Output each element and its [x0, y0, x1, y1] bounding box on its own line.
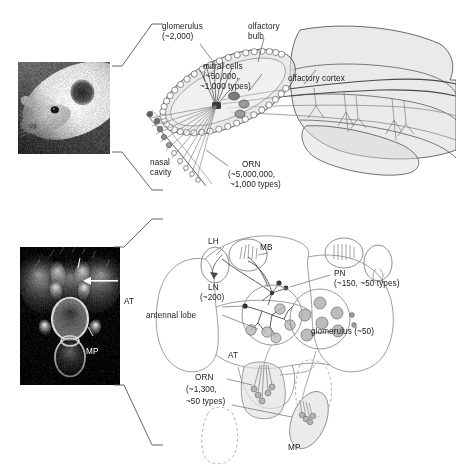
mushroom-body — [229, 238, 363, 271]
leader-ln — [222, 306, 244, 307]
label-ln-count: (~200) — [200, 293, 224, 303]
label-mp-photo: MP — [86, 347, 98, 357]
label-mitral-cells-count2: ~1,000 types) — [200, 82, 251, 92]
label-glomerulus-count: (~2,000) — [162, 32, 193, 42]
leader-orn — [206, 150, 228, 166]
label-orn-fly-count2: ~50 types) — [186, 397, 225, 407]
antenna-structure — [241, 362, 285, 419]
leader-antennal-lobe — [222, 315, 258, 329]
label-orn-count1: (~5,000,000, — [228, 170, 275, 180]
label-lh: LH — [208, 237, 219, 247]
label-antennal-lobe: antennal lobe — [146, 311, 196, 321]
leader-mb — [258, 253, 268, 255]
label-glomerulus: glomerulus — [162, 22, 203, 32]
connector-top — [112, 24, 163, 66]
label-at-diagram: AT — [228, 351, 238, 361]
label-olfactory-cortex: olfactory cortex — [288, 74, 345, 84]
label-orn-fly-count1: (~1,300, — [186, 385, 217, 395]
connector-fly-bottom — [114, 385, 163, 445]
label-pn: PN — [334, 269, 346, 279]
fly-olfactory-panel: LH MB PN (~150, ~50 types) LN (~200) ant… — [0, 215, 456, 464]
mouse-diagram-graphics — [0, 0, 456, 215]
label-mitral-cells: mitral cells — [203, 62, 243, 72]
fly-diagram-graphics — [0, 215, 456, 464]
label-at-photo: AT — [124, 297, 134, 307]
connector-fly-top — [114, 219, 163, 247]
leader-glomerulus — [200, 44, 212, 60]
label-glomerulus-fly: glomerulus (~50) — [311, 327, 374, 337]
maxillary-palp-mirror-dashed — [202, 407, 238, 464]
olfactory-system-figure: glomerulus (~2,000) olfactory bulb mitra… — [0, 0, 456, 464]
brain-outline — [290, 26, 456, 175]
label-mp-diagram: MP — [288, 443, 300, 453]
label-nasal-cavity-line1: nasal — [150, 158, 170, 168]
mouse-olfactory-panel: glomerulus (~2,000) olfactory bulb mitra… — [0, 0, 456, 215]
label-nasal-cavity-line2: cavity — [150, 168, 171, 178]
label-orn-count2: ~1,000 types) — [230, 180, 281, 190]
label-mitral-cells-count1: (~50,000, — [203, 72, 239, 82]
label-orn-fly: ORN — [195, 373, 213, 383]
label-pn-count: (~150, ~50 types) — [334, 279, 400, 289]
antennal-lobe-right — [290, 289, 356, 349]
label-mb: MB — [260, 243, 272, 253]
label-olfactory-bulb-line1: olfactory — [248, 22, 280, 32]
label-ln: LN — [208, 283, 219, 293]
label-olfactory-bulb-line2: bulb — [248, 32, 264, 42]
label-orn: ORN — [242, 160, 260, 170]
